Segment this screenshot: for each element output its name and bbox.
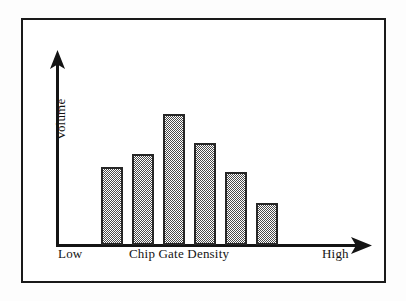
y-axis-label: Volume [53,99,68,140]
figure-root: Volume Low Chip Gate Density High [0,0,406,301]
bar-4 [194,143,216,245]
plot-area: Volume Low Chip Gate Density High [23,20,384,281]
x-axis-high-label: High [322,246,349,261]
chart-frame: Volume Low Chip Gate Density High [21,18,386,283]
bar-5 [225,172,247,245]
bar-6 [256,203,278,245]
bar-3 [163,114,185,245]
x-axis-title: Chip Gate Density [129,246,229,261]
bar-1 [101,167,123,245]
x-axis-low-label: Low [58,246,82,261]
bar-2 [132,154,154,245]
